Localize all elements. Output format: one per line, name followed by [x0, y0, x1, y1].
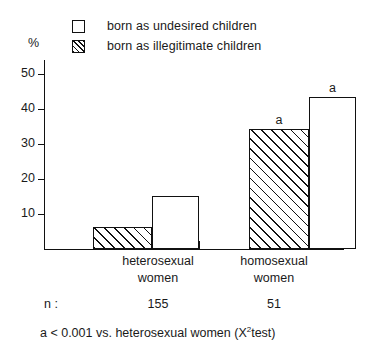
chart-legend: born as undesired children born as illeg…	[72, 16, 312, 56]
bar-heterosexual-undesired	[152, 196, 199, 249]
y-tick-label-50: 50	[21, 66, 35, 80]
figure-bar-chart: born as undesired children born as illeg…	[0, 0, 369, 353]
category-label-heterosexual-line1: heterosexual	[98, 253, 218, 270]
category-label-heterosexual: heterosexual women	[98, 253, 218, 287]
category-label-homosexual-line2: women	[218, 270, 330, 287]
n-value-homosexual: 51	[218, 297, 330, 311]
y-tick-10: 10	[38, 214, 44, 215]
y-tick-50: 50	[38, 74, 44, 75]
legend-swatch-open-square	[72, 20, 85, 33]
y-tick-label-10: 10	[21, 206, 35, 220]
plot-area: 50 40 30 20 10 a a	[44, 60, 344, 250]
legend-item-illegitimate: born as illegitimate children	[72, 36, 312, 56]
bar-annotation-homosexual-undesired: a	[310, 81, 355, 95]
y-tick-label-20: 20	[21, 171, 35, 185]
y-tick-label-40: 40	[21, 101, 35, 115]
legend-label-undesired: born as undesired children	[107, 19, 257, 33]
y-tick-40: 40	[38, 109, 44, 110]
n-value-heterosexual: 155	[98, 297, 218, 311]
y-tick-20: 20	[38, 179, 44, 180]
footnote-suffix: test)	[251, 326, 275, 340]
bar-annotation-homosexual-illegitimate: a	[250, 113, 308, 127]
x-axis-line	[44, 249, 344, 250]
footnote-prefix: a < 0.001 vs. heterosexual women (X	[40, 326, 247, 340]
category-label-homosexual-line1: homosexual	[218, 253, 330, 270]
y-tick-30: 30	[38, 144, 44, 145]
category-label-homosexual: homosexual women	[218, 253, 330, 287]
bar-homosexual-illegitimate: a	[249, 129, 309, 249]
x-tick-3	[199, 241, 200, 250]
y-tick-label-30: 30	[21, 136, 35, 150]
chart-footnote: a < 0.001 vs. heterosexual women (X2test…	[40, 325, 275, 340]
n-row-key: n :	[44, 297, 58, 311]
y-axis-unit-label: %	[28, 36, 39, 50]
y-axis-line	[44, 60, 45, 250]
bar-homosexual-undesired: a	[309, 97, 356, 249]
category-label-heterosexual-line2: women	[98, 270, 218, 287]
bar-heterosexual-illegitimate	[93, 227, 152, 249]
legend-label-illegitimate: born as illegitimate children	[107, 39, 261, 53]
legend-swatch-hatched-square	[72, 40, 85, 53]
legend-item-undesired: born as undesired children	[72, 16, 312, 36]
